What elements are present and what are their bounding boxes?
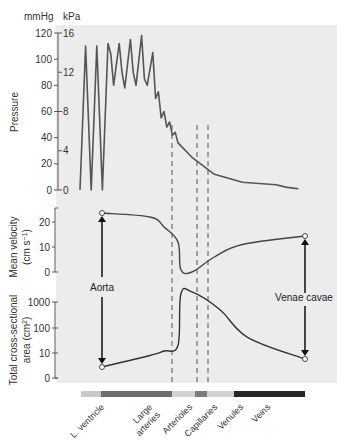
area-axis: 0101001000 <box>28 297 58 384</box>
aorta-label: Aorta <box>90 282 114 293</box>
pressure-tick-label-mmhg: 0 <box>46 185 52 196</box>
area-venae-cavae-point <box>303 357 308 362</box>
segment-venules <box>207 391 234 397</box>
segment-label-large-arteries: Largearteries <box>126 402 162 438</box>
velocity-axis: 01020 <box>39 208 58 278</box>
velocity-venae-cavae-point <box>303 234 308 239</box>
segment-label-line: Venules <box>216 402 246 432</box>
segment-label-line: L. ventricle <box>68 402 106 440</box>
segment-arterioles <box>172 391 195 397</box>
velocity-tick-label: 20 <box>39 217 51 228</box>
vessel-segment-labels: L. ventricleLargearteriesArteriolesCapil… <box>68 402 272 440</box>
segment-label-veins: Veins <box>250 402 273 425</box>
area-axis-title: Total cross-sectional <box>8 295 19 386</box>
pressure-tick-label-kpa: 12 <box>63 67 75 78</box>
pressure-tick-label-kpa: 16 <box>63 28 75 39</box>
unit-mmhg: mmHg <box>24 11 53 22</box>
area-tick-label: 1000 <box>28 297 51 308</box>
area-tick-label: 100 <box>33 323 50 334</box>
velocity-tick-label: 0 <box>44 267 50 278</box>
velocity-tick-label: 10 <box>39 242 51 253</box>
pressure-tick-label-mmhg: 40 <box>41 132 53 143</box>
segment-label-venules: Venules <box>216 402 246 432</box>
pressure-tick-label-mmhg: 120 <box>35 28 52 39</box>
velocity-axis-units: (cm s−1) <box>21 229 33 265</box>
area-axis-units: area (cm2) <box>21 317 33 364</box>
pressure-tick-label-kpa: 4 <box>63 145 69 156</box>
pressure-tick-label-mmhg: 20 <box>41 158 53 169</box>
venae-cavae-label: Venae cavae <box>275 292 333 303</box>
circulation-chart: mmHg kPa 0204060801001200481216 Pressure… <box>0 0 343 440</box>
velocity-axis-title: Mean velocity <box>8 216 19 277</box>
segment-large-arteries <box>101 391 172 397</box>
segment-label-line: Veins <box>250 402 273 425</box>
pressure-tick-label-mmhg: 80 <box>41 80 53 91</box>
area-aorta-point <box>100 365 105 370</box>
vessel-segment-bar <box>81 391 305 397</box>
area-tick-label: 10 <box>39 348 51 359</box>
pressure-tick-label-kpa: 8 <box>63 106 69 117</box>
area-tick-label: 0 <box>44 373 50 384</box>
segment-veins <box>234 391 305 397</box>
velocity-aorta-point <box>100 211 105 216</box>
segment-l-ventricle <box>81 391 101 397</box>
pressure-axis-title: Pressure <box>9 92 20 132</box>
unit-kpa: kPa <box>63 11 81 22</box>
pressure-tick-label-mmhg: 100 <box>35 54 52 65</box>
segment-capillaries <box>195 391 207 397</box>
pressure-tick-label-kpa: 0 <box>63 185 69 196</box>
segment-label-l-ventricle: L. ventricle <box>68 402 106 440</box>
pressure-tick-label-mmhg: 60 <box>41 106 53 117</box>
